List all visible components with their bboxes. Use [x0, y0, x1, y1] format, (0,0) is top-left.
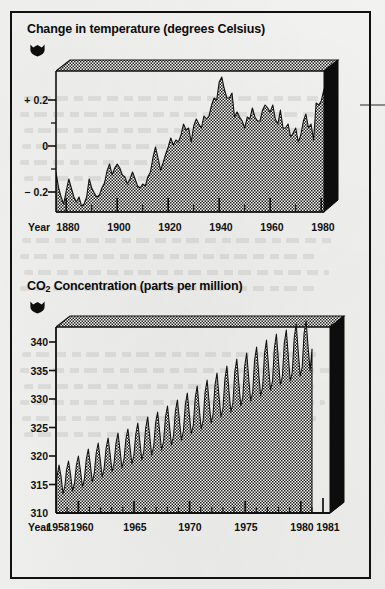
x-axis-prefix-label: Year — [28, 221, 50, 233]
figure-frame: Change in temperature (degrees Celsius) — [10, 11, 371, 579]
x-tick-label: 1940 — [209, 221, 232, 233]
x-tick-label: 1960 — [70, 521, 93, 533]
y-tick-label: − 0.2 — [24, 186, 48, 198]
x-tick-label: 1970 — [178, 521, 201, 533]
y-tick-label: 340 — [30, 336, 48, 348]
temperature-y-axis — [48, 58, 60, 218]
y-tick-label: 0 — [42, 140, 48, 152]
x-tick-label: 1880 — [56, 221, 79, 233]
co2-title-main: CO — [27, 279, 45, 293]
temperature-y-labels: + 0.2 0 − 0.2 — [6, 58, 48, 218]
temperature-area-path — [56, 77, 324, 212]
x-tick-label: 1900 — [107, 221, 130, 233]
temperature-chart-title: Change in temperature (degrees Celsius) — [27, 22, 265, 36]
x-tick-label: 1980 — [311, 221, 334, 233]
temperature-chart-panel: Change in temperature (degrees Celsius) — [12, 13, 369, 261]
x-tick-label: 1920 — [158, 221, 181, 233]
x-tick-label: 1960 — [260, 221, 283, 233]
x-tick-label: 1958 — [46, 521, 69, 533]
x-tick-label: 1975 — [234, 521, 257, 533]
temperature-x-labels: Year 1880 1900 1920 1940 1960 1980 — [28, 221, 368, 237]
co2-y-axis — [48, 313, 60, 523]
crown-marker-icon — [30, 44, 45, 57]
y-tick-label: 315 — [30, 479, 48, 491]
x-tick-label: 1965 — [123, 521, 146, 533]
co2-title-rest: Concentration (parts per million) — [50, 279, 242, 293]
co2-area-path — [56, 321, 312, 513]
co2-chart-panel: CO2 Concentration (parts per million) — [12, 275, 369, 581]
co2-chart-svg — [56, 313, 368, 523]
co2-chart-title: CO2 Concentration (parts per million) — [27, 279, 242, 294]
y-tick-label: 320 — [30, 450, 48, 462]
temperature-chart-svg — [56, 58, 366, 218]
y-tick-label: 310 — [30, 507, 48, 519]
temperature-plot-area: + 0.2 0 − 0.2 Year 1880 1900 1920 1940 1… — [56, 58, 366, 218]
co2-plot-area: 340 335 330 325 320 315 310 Year 1958 19… — [56, 313, 368, 523]
co2-y-labels: 340 335 330 325 320 315 310 — [6, 313, 48, 523]
y-tick-label: 325 — [30, 422, 48, 434]
y-tick-label: 330 — [30, 393, 48, 405]
x-tick-label: 1980 — [290, 521, 313, 533]
x-tick-label: 1981 — [316, 521, 339, 533]
co2-x-labels: Year 1958 1960 1965 1970 1975 1980 1981 — [28, 521, 373, 537]
y-tick-label: 335 — [30, 365, 48, 377]
y-tick-label: + 0.2 — [24, 94, 48, 106]
